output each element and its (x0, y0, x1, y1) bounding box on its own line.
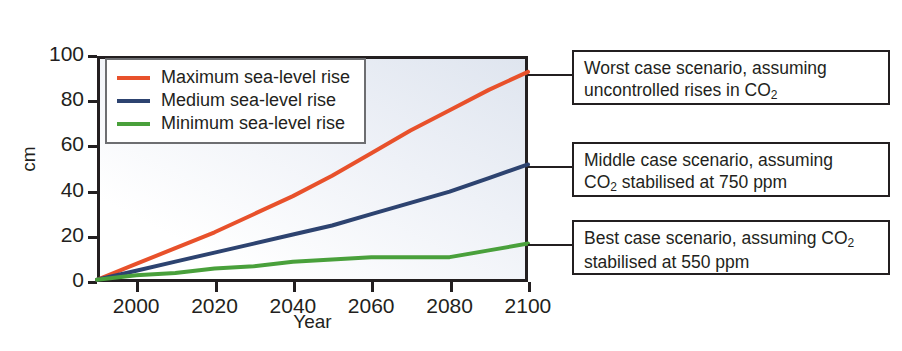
legend-item-minimum: Minimum sea-level rise (117, 112, 350, 135)
x-tick-mark (293, 282, 296, 292)
y-tick-100: 100 (0, 56, 97, 57)
x-tick-mark (215, 282, 218, 292)
x-tick-mark (450, 282, 453, 292)
legend: Maximum sea-level rise Medium sea-level … (105, 58, 366, 144)
legend-swatch-maximum (117, 76, 150, 80)
y-tick-20: 20 (0, 237, 97, 238)
callout-middle-line2-pre: CO (584, 172, 610, 192)
callout-middle-subscript: 2 (610, 180, 617, 194)
y-tick-label: 20 (61, 224, 84, 245)
y-tick-label: 80 (61, 88, 84, 109)
legend-label-maximum: Maximum sea-level rise (161, 68, 350, 87)
callout-worst-case-text: Worst case scenario, assuminguncontrolle… (584, 57, 879, 103)
y-tick-mark (88, 236, 97, 239)
legend-label-medium: Medium sea-level rise (161, 91, 336, 110)
sea-level-rise-chart: cm 0 20 40 60 80 100 2000 2020 2040 2060 (0, 0, 902, 351)
y-tick-mark (88, 100, 97, 103)
leader-line-best-case (528, 244, 572, 246)
callout-middle-line2-post: stabilised at 750 ppm (617, 172, 787, 192)
leader-line-worst-case (528, 74, 572, 76)
y-tick-label: 40 (61, 179, 84, 200)
callout-middle-case: Middle case scenario, assumingCO2 stabil… (572, 142, 890, 197)
callout-best-line1-pre: Best case scenario, assuming CO (584, 228, 848, 248)
y-tick-mark (88, 145, 97, 148)
y-tick-mark (88, 281, 97, 284)
callout-best-line2: stabilised at 550 ppm (584, 252, 749, 272)
leader-line-middle-case (528, 166, 572, 168)
y-tick-label: 100 (49, 43, 84, 64)
callout-worst-line1: Worst case scenario, assuming (584, 58, 827, 78)
callout-worst-subscript: 2 (771, 88, 778, 102)
x-tick-mark (528, 282, 531, 292)
y-tick-40: 40 (0, 192, 97, 193)
legend-item-medium: Medium sea-level rise (117, 89, 350, 112)
legend-label-minimum: Minimum sea-level rise (161, 114, 345, 133)
callout-best-case-text: Best case scenario, assuming CO2stabilis… (584, 227, 879, 273)
legend-swatch-medium (117, 99, 150, 103)
y-tick-80: 80 (0, 101, 97, 102)
y-tick-label: 60 (61, 133, 84, 154)
legend-item-maximum: Maximum sea-level rise (117, 66, 350, 89)
callout-middle-case-text: Middle case scenario, assumingCO2 stabil… (584, 149, 879, 195)
series-line-minimum (97, 244, 528, 280)
callout-worst-line2-pre: uncontrolled rises in CO (584, 80, 771, 100)
y-tick-mark (88, 191, 97, 194)
callout-best-subscript: 2 (848, 236, 855, 250)
y-tick-0: 0 (0, 282, 97, 283)
callout-best-case: Best case scenario, assuming CO2stabilis… (572, 220, 890, 275)
callout-worst-case: Worst case scenario, assuminguncontrolle… (572, 50, 890, 105)
y-tick-60: 60 (0, 146, 97, 147)
y-tick-mark (88, 55, 97, 58)
y-axis-label: cm (18, 124, 40, 194)
x-tick-mark (371, 282, 374, 292)
legend-swatch-minimum (117, 122, 150, 126)
callout-middle-line1: Middle case scenario, assuming (584, 150, 833, 170)
x-axis-label: Year (97, 311, 528, 333)
x-tick-mark (136, 282, 139, 292)
y-tick-label: 0 (72, 269, 84, 290)
